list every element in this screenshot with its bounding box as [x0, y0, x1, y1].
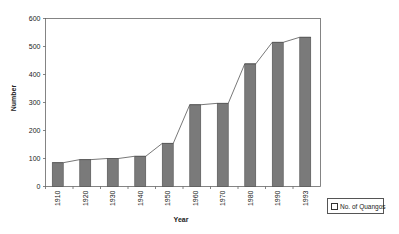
bar [300, 37, 311, 186]
y-tick-label: 300 [29, 99, 41, 106]
bar [107, 159, 118, 187]
legend-swatch [331, 203, 338, 210]
y-tick-label: 200 [29, 127, 41, 134]
y-tick-label: 600 [29, 15, 41, 22]
x-tick-label: 1920 [82, 190, 89, 206]
bar [217, 103, 228, 186]
x-tick-label: 1990 [274, 190, 281, 206]
x-tick-label: 1940 [137, 190, 144, 206]
x-tick-label: 1970 [219, 190, 226, 206]
y-tick-label: 400 [29, 71, 41, 78]
bar [190, 105, 201, 187]
bar [272, 42, 283, 186]
legend: No. of Quangos [327, 198, 384, 214]
bar [135, 156, 146, 186]
x-tick-label: 1930 [109, 190, 116, 206]
x-axis: 1910192019301940195019601970198019901993 [46, 187, 309, 207]
y-axis-title: Number [10, 85, 17, 112]
bar-series [52, 37, 311, 186]
x-tick-label: 1950 [164, 190, 171, 206]
y-tick-label: 500 [29, 43, 41, 50]
y-tick-label: 0 [37, 183, 41, 190]
bar [162, 143, 173, 186]
x-axis-title: Year [174, 216, 189, 223]
bar [80, 160, 91, 187]
bar [52, 163, 63, 187]
y-axis: 0100200300400500600 [29, 15, 46, 190]
x-tick-label: 1980 [247, 190, 254, 206]
x-tick-label: 1910 [54, 190, 61, 206]
x-tick-label: 1993 [302, 190, 309, 206]
legend-label: No. of Quangos [340, 203, 386, 210]
y-tick-label: 100 [29, 155, 41, 162]
x-tick-label: 1960 [192, 190, 199, 206]
bar [245, 64, 256, 187]
